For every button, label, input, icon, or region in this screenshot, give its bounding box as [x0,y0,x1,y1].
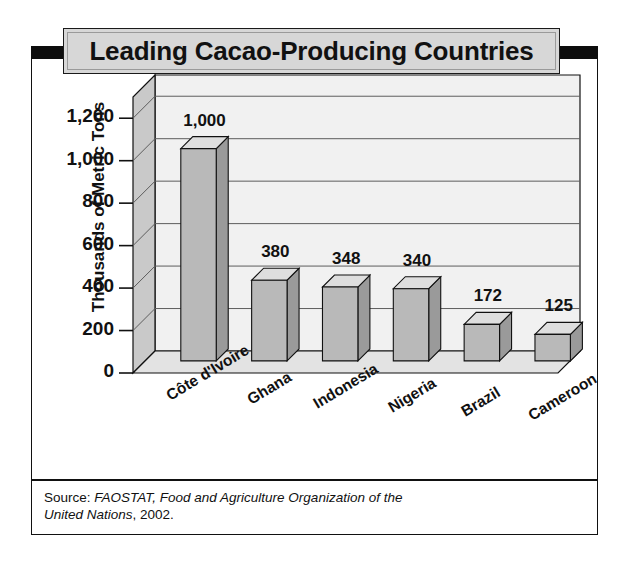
bar-side-face [287,268,299,361]
bar-side-face [429,277,441,361]
y-axis-tick-label: 1,200 [36,105,114,127]
bar-value-label: 125 [514,296,604,316]
source-prefix: Source: [44,490,94,505]
y-axis-tick-label: 1,000 [36,148,114,170]
y-axis-tick-label: 400 [36,275,114,297]
bar-front-face [464,324,499,361]
bar-side-face [358,275,370,361]
bar-front-face [181,149,216,361]
y-axis-tick-label: 800 [36,190,114,212]
bar-front-face [393,289,428,361]
chart-plot-area: Thousands of Metric Tons 02004006008001,… [31,47,598,487]
y-axis-tick-label: 0 [36,360,114,382]
source-note: Source: FAOSTAT, Food and Agriculture Or… [44,489,444,524]
bar-side-face [216,137,228,361]
source-citation: FAOSTAT, Food and Agriculture Organizati… [44,490,402,522]
left-wall [133,75,155,373]
bar-value-label: 1,000 [160,111,250,131]
source-year: , 2002. [133,507,174,522]
y-axis-tick-label: 200 [36,318,114,340]
source-divider [32,479,597,481]
bar-front-face [252,280,287,361]
bar-front-face [535,334,570,361]
chart-page: Leading Cacao-Producing Countries Thousa… [0,0,618,574]
bar-value-label: 340 [372,251,462,271]
y-axis-tick-label: 600 [36,233,114,255]
bar-front-face [322,287,357,361]
